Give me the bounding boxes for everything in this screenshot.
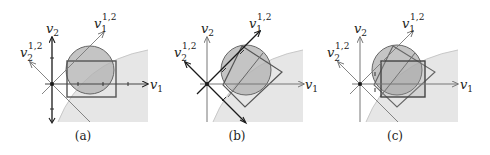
label-v1: v1 [150, 77, 163, 94]
caption-c: (c) [387, 129, 403, 143]
label-v2-12: v21,2 [20, 41, 42, 63]
label-v1-12: v11,2 [249, 12, 271, 34]
label-v2-12: v21,2 [174, 41, 196, 63]
panel-c: v1 v2 v11,2 v21,2 (c) [327, 12, 473, 143]
caption-b: (b) [228, 129, 245, 143]
circle [221, 45, 271, 95]
label-v1: v1 [460, 77, 473, 94]
label-v1-12: v11,2 [94, 12, 116, 34]
label-v1: v1 [305, 77, 318, 94]
label-v2: v2 [201, 21, 214, 38]
caption-a: (a) [75, 129, 92, 143]
label-v2-12: v21,2 [327, 41, 349, 63]
figure: v1 v2 v11,2 v21,2 (a) v1 v2 v11,2 v21,2 … [0, 0, 490, 155]
panel-a: v1 v2 v11,2 v21,2 (a) [20, 12, 163, 143]
label-v2: v2 [354, 21, 367, 38]
label-v2: v2 [46, 21, 59, 38]
label-v1-12: v11,2 [402, 12, 424, 34]
box [381, 61, 425, 97]
panel-b: v1 v2 v11,2 v21,2 (b) [174, 12, 318, 143]
circle [66, 46, 114, 94]
